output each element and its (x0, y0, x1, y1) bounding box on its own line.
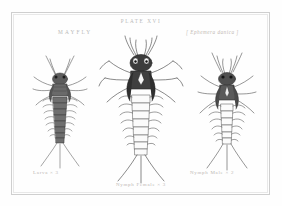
nymph-female-drawing (96, 33, 186, 185)
scientific-name-label: [ Ephemera danica ] (186, 29, 239, 35)
plate-illustration: PLATE XVI MAYFLY [ Ephemera danica ] (0, 0, 282, 206)
specimen-nymph-female (96, 33, 186, 185)
nymph-male-drawing (192, 50, 262, 172)
larva-drawing (25, 50, 95, 170)
plate-number-label: PLATE XVI (0, 18, 282, 24)
caption-nymph-female: Nymph Female × 3 (0, 182, 282, 187)
caption-larva: Larva × 3 (33, 170, 59, 175)
caption-nymph-male: Nymph Male × 2 (190, 170, 234, 175)
specimen-nymph-male (192, 50, 262, 172)
common-name-label: MAYFLY (58, 29, 92, 35)
specimen-larva (25, 50, 95, 170)
